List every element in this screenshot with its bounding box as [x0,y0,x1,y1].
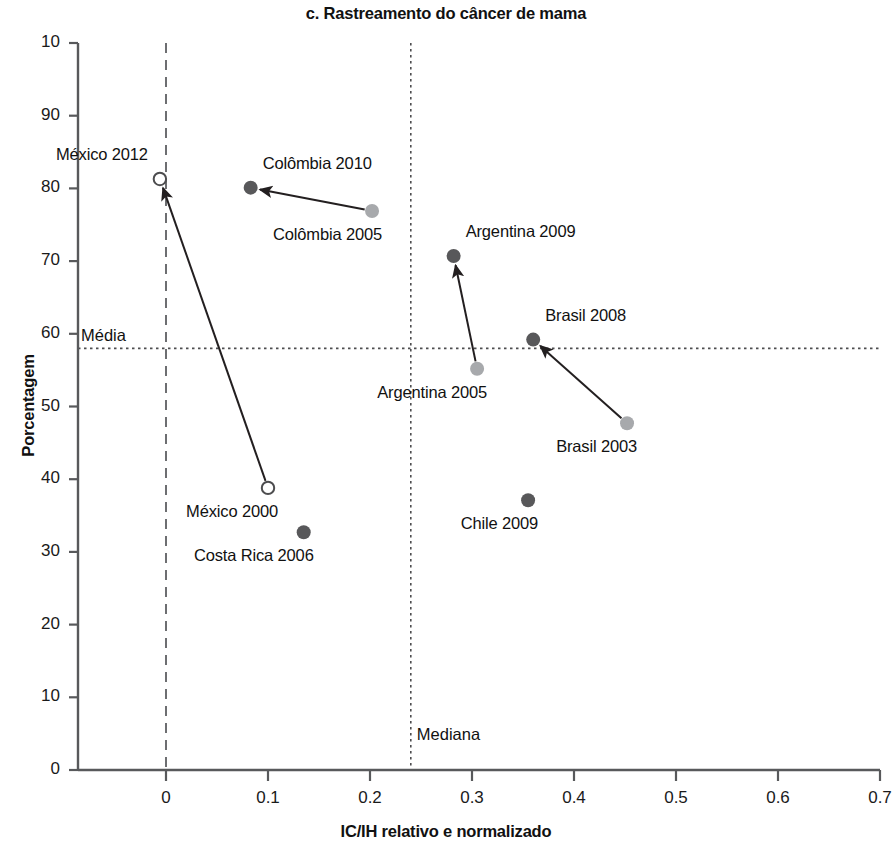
x-tick-label-0.7: 0.7 [850,788,892,808]
point-label-brasil-2008: Brasil 2008 [545,306,626,325]
media-reference-label: Média [81,326,126,345]
axes-group [69,43,880,781]
data-point-colômbia-2005[interactable] [365,204,379,218]
data-point-méxico-2000[interactable] [262,482,274,494]
x-tick-label-0.3: 0.3 [442,788,502,808]
point-label-argentina-2005: Argentina 2005 [0,383,487,402]
data-point-méxico-2012[interactable] [154,173,166,185]
data-point-brasil-2008[interactable] [526,333,540,347]
brasil-arrow [540,346,621,418]
x-tick-label-0: 0 [136,788,196,808]
point-label-colômbia-2010: Colômbia 2010 [263,154,372,173]
y-tick-label-70: 70 [4,250,60,270]
y-tick-label-10: 10 [4,32,60,52]
x-tick-label-0.1: 0.1 [238,788,298,808]
argentina-arrow [456,265,476,361]
point-label-brasil-2003: Brasil 2003 [0,437,637,456]
x-axis-title: IC/IH relativo e normalizado [0,822,892,841]
y-tick-label-0: 0 [4,759,60,779]
point-label-costa-rica-2006: Costa Rica 2006 [0,546,314,565]
x-tick-label-0.6: 0.6 [748,788,808,808]
point-label-colômbia-2005: Colômbia 2005 [0,225,382,244]
x-tick-label-0.2: 0.2 [340,788,400,808]
data-point-argentina-2009[interactable] [447,249,461,263]
data-point-chile-2009[interactable] [521,493,535,507]
point-label-méxico-2012: México 2012 [0,145,148,164]
y-tick-label-10: 10 [4,686,60,706]
point-label-argentina-2009: Argentina 2009 [466,222,576,241]
data-point-colômbia-2010[interactable] [244,181,258,195]
y-tick-label-80: 80 [4,177,60,197]
reference-lines-group [78,43,880,770]
x-tick-label-0.4: 0.4 [544,788,604,808]
x-tick-label-0.5: 0.5 [646,788,706,808]
data-point-brasil-2003[interactable] [620,416,634,430]
mediana-reference-label: Mediana [417,725,480,744]
y-tick-label-20: 20 [4,614,60,634]
point-label-chile-2009: Chile 2009 [0,514,538,533]
colombia-arrow [260,189,365,209]
chart-figure: c. Rastreamento do câncer de mama 010203… [0,0,892,854]
data-point-argentina-2005[interactable] [470,362,484,376]
y-tick-label-90: 90 [4,105,60,125]
y-axis-title: Porcentagem [19,316,38,496]
